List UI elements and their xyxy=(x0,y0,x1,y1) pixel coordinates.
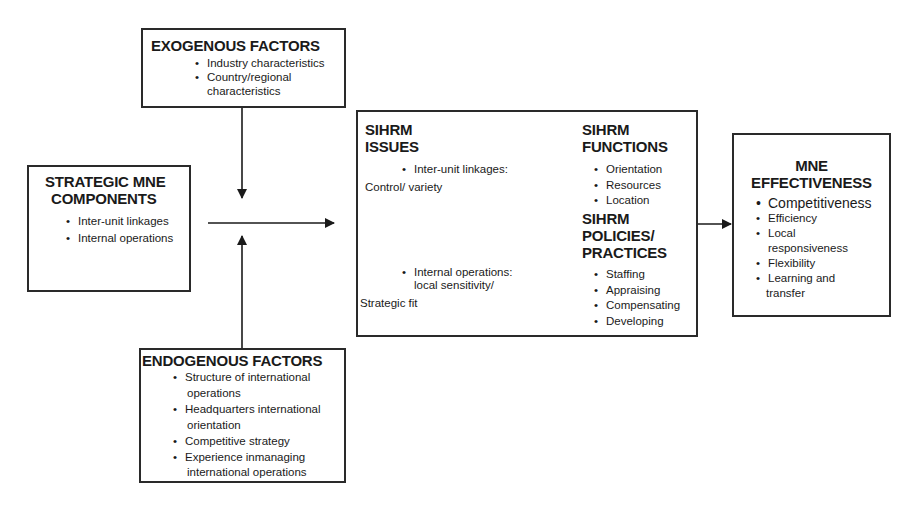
strategic-mne-components-box: STRATEGIC MNE COMPONENTS Inter-unit link… xyxy=(27,165,191,292)
sihrm-function-item: Orientation xyxy=(594,162,662,178)
endogenous-item: Experience inmanaging xyxy=(173,450,305,466)
mne-title-1: MNE xyxy=(734,157,889,174)
mne-item-cont: transfer xyxy=(766,286,805,300)
endogenous-item-cont: international operations xyxy=(187,465,307,479)
sihrm-issues-list-1: Inter-unit linkages: xyxy=(402,162,508,176)
mne-item: Learning and xyxy=(756,271,835,286)
mne-item: Local xyxy=(756,226,872,241)
sihrm-functions-title-1: SIHRM xyxy=(582,121,629,138)
sihrm-policy-item: Developing xyxy=(594,314,680,330)
sihrm-issue-text: Control/ variety xyxy=(365,180,442,194)
strategic-list: Inter-unit linkages Internal operations xyxy=(66,213,173,247)
endogenous-list: Structure of international xyxy=(173,370,310,386)
sihrm-policies-title-1: SIHRM xyxy=(582,210,629,227)
sihrm-issue-item: Inter-unit linkages: xyxy=(402,162,508,176)
strategic-title-1: STRATEGIC MNE xyxy=(45,173,165,190)
sihrm-policies-title-3: PRACTICES xyxy=(582,244,667,261)
endogenous-factors-box: ENDOGENOUS FACTORS Structure of internat… xyxy=(139,348,346,483)
exogenous-list: Industry characteristics Country/regiona… xyxy=(195,56,325,84)
strategic-title-2: COMPONENTS xyxy=(51,190,157,207)
exogenous-item: Country/regional xyxy=(195,70,325,84)
endogenous-item: Structure of international xyxy=(173,370,310,386)
strategic-item: Internal operations xyxy=(66,230,173,247)
exogenous-title: EXOGENOUS FACTORS xyxy=(151,37,320,54)
sihrm-function-item: Resources xyxy=(594,178,662,194)
mne-effectiveness-box: MNE EFFECTIVENESS Competitiveness Effici… xyxy=(732,133,891,317)
exogenous-factors-box: EXOGENOUS FACTORS Industry characteristi… xyxy=(141,28,346,108)
exogenous-item-cont: characteristics xyxy=(207,84,281,98)
endogenous-item-cont: operations xyxy=(187,386,241,400)
mne-item: Efficiency xyxy=(756,211,872,226)
sihrm-policy-item: Appraising xyxy=(594,283,680,299)
endogenous-item: Competitive strategy xyxy=(173,434,305,450)
sihrm-issue-text: Strategic fit xyxy=(360,296,418,310)
mne-item: Competitiveness xyxy=(756,195,872,211)
endogenous-title: ENDOGENOUS FACTORS xyxy=(142,352,322,369)
mne-list: Competitiveness Efficiency Local xyxy=(756,195,872,241)
sihrm-policy-item: Compensating xyxy=(594,298,680,314)
sihrm-box: SIHRM ISSUES Inter-unit linkages: Contro… xyxy=(356,110,698,337)
sihrm-functions-list: Orientation Resources Location xyxy=(594,162,662,209)
mne-title-2: EFFECTIVENESS xyxy=(734,174,889,191)
endogenous-item-cont: orientation xyxy=(187,418,241,432)
sihrm-policy-item: Staffing xyxy=(594,267,680,283)
sihrm-issue-text: local sensitivity/ xyxy=(414,278,494,292)
endogenous-item: Headquarters international xyxy=(173,402,321,418)
mne-item-cont: responsiveness xyxy=(768,241,848,255)
sihrm-functions-title-2: FUNCTIONS xyxy=(582,138,668,155)
mne-item: Flexibility xyxy=(756,256,835,271)
sihrm-policies-title-2: POLICIES/ xyxy=(582,227,654,244)
endogenous-list: Competitive strategy Experience inmanagi… xyxy=(173,434,305,465)
sihrm-issues-title-2: ISSUES xyxy=(365,138,419,155)
strategic-item: Inter-unit linkages xyxy=(66,213,173,230)
endogenous-list: Headquarters international xyxy=(173,402,321,418)
sihrm-issue-item: Internal operations: xyxy=(402,265,512,279)
exogenous-item: Industry characteristics xyxy=(195,56,325,70)
sihrm-policies-list: Staffing Appraising Compensating Develop… xyxy=(594,267,680,329)
sihrm-issues-title-1: SIHRM xyxy=(365,121,412,138)
sihrm-issues-list-2: Internal operations: xyxy=(402,265,512,279)
sihrm-function-item: Location xyxy=(594,193,662,209)
mne-list: Flexibility Learning and xyxy=(756,256,835,286)
